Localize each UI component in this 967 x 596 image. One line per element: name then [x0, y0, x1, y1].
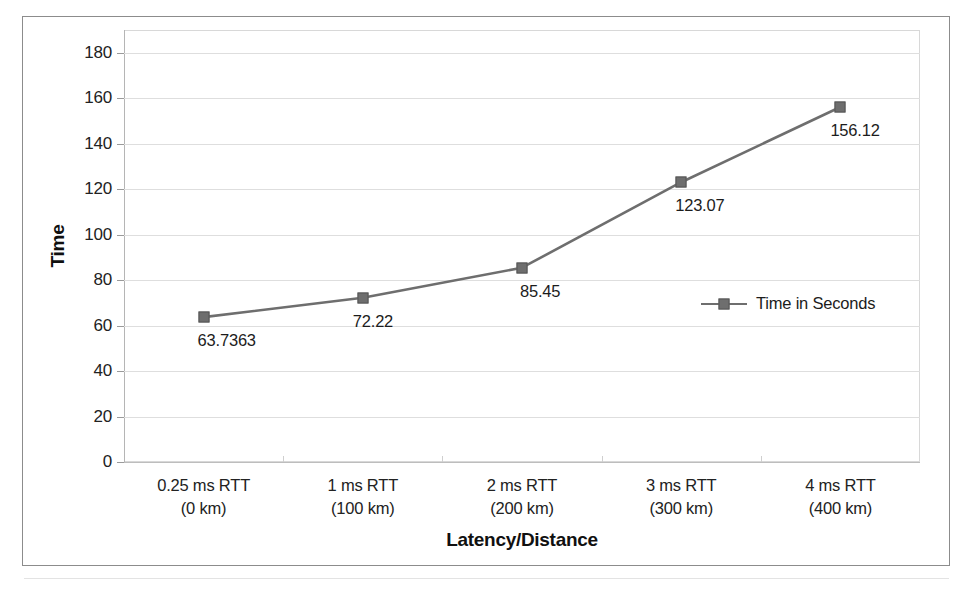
y-tick-mark-140	[117, 144, 124, 145]
chart-figure: 020406080100120140160180 0.25 ms RTT(0 k…	[0, 0, 967, 596]
y-tick-label-80: 80	[58, 270, 112, 290]
y-tick-label-60: 60	[58, 316, 112, 336]
gridline-y-40	[124, 371, 920, 372]
data-point-marker-4	[835, 102, 846, 113]
x-tick-label-4: 4 ms RTT(400 km)	[761, 474, 920, 520]
gridline-y-0	[124, 462, 920, 463]
gridline-y-120	[124, 189, 920, 190]
y-tick-mark-40	[117, 371, 124, 372]
x-tick-label-4-rtt: 4 ms RTT	[805, 476, 876, 494]
x-category-tick-1	[283, 456, 284, 462]
y-axis-title: Time	[47, 225, 69, 268]
y-tick-label-0: 0	[58, 452, 112, 472]
x-category-tick-2	[442, 456, 443, 462]
y-tick-mark-60	[117, 326, 124, 327]
y-tick-label-120: 120	[58, 179, 112, 199]
y-tick-mark-180	[117, 53, 124, 54]
legend-series-marker-icon	[701, 298, 747, 310]
y-tick-label-140: 140	[58, 134, 112, 154]
y-tick-mark-20	[117, 417, 124, 418]
y-tick-mark-160	[117, 98, 124, 99]
legend-label-time-in-seconds: Time in Seconds	[756, 294, 875, 313]
x-tick-label-2-rtt: 2 ms RTT	[487, 476, 558, 494]
y-tick-label-40: 40	[58, 361, 112, 381]
data-point-label-2: 85.45	[520, 282, 560, 301]
x-tick-label-2: 2 ms RTT(200 km)	[442, 474, 601, 520]
gridline-y-60	[124, 326, 920, 327]
x-category-tick-3	[602, 456, 603, 462]
y-tick-label-160: 160	[58, 88, 112, 108]
scan-artifact-line	[24, 578, 949, 579]
x-tick-label-3-rtt: 3 ms RTT	[646, 476, 717, 494]
data-point-marker-2	[517, 262, 528, 273]
x-tick-label-2-distance: (200 km)	[442, 497, 601, 520]
y-tick-label-180: 180	[58, 43, 112, 63]
gridline-y-180	[124, 53, 920, 54]
x-category-tick-4	[761, 456, 762, 462]
x-tick-label-1: 1 ms RTT(100 km)	[283, 474, 442, 520]
x-tick-label-0: 0.25 ms RTT(0 km)	[124, 474, 283, 520]
x-tick-label-3-distance: (300 km)	[602, 497, 761, 520]
data-point-label-3: 123.07	[675, 196, 724, 215]
chart-legend: Time in Seconds	[701, 294, 875, 313]
data-point-marker-1	[357, 292, 368, 303]
x-tick-label-4-distance: (400 km)	[761, 497, 920, 520]
gridline-y-140	[124, 144, 920, 145]
x-tick-label-0-distance: (0 km)	[124, 497, 283, 520]
data-point-label-1: 72.22	[353, 312, 393, 331]
x-tick-label-1-rtt: 1 ms RTT	[328, 476, 399, 494]
data-point-label-0: 63.7363	[198, 331, 256, 350]
data-point-marker-0	[198, 312, 209, 323]
x-tick-label-1-distance: (100 km)	[283, 497, 442, 520]
y-tick-mark-0	[117, 462, 124, 463]
gridline-y-160	[124, 98, 920, 99]
x-tick-label-0-rtt: 0.25 ms RTT	[157, 476, 250, 494]
plot-area	[124, 30, 920, 462]
y-axis-line	[124, 30, 125, 462]
gridline-y-20	[124, 417, 920, 418]
data-point-marker-3	[676, 177, 687, 188]
x-tick-label-3: 3 ms RTT(300 km)	[602, 474, 761, 520]
y-tick-mark-100	[117, 235, 124, 236]
data-point-label-4: 156.12	[830, 121, 879, 140]
y-tick-mark-120	[117, 189, 124, 190]
x-axis-title: Latency/Distance	[124, 529, 920, 551]
y-tick-mark-80	[117, 280, 124, 281]
y-tick-label-20: 20	[58, 407, 112, 427]
gridline-y-100	[124, 235, 920, 236]
